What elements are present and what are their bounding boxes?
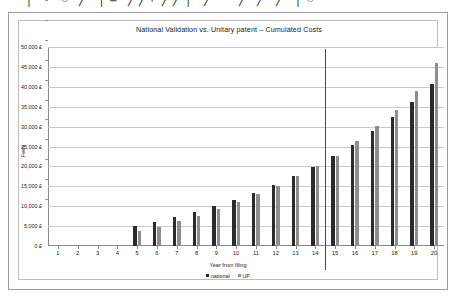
y-axis-label: 45,000 £ — [0, 64, 42, 70]
x-axis-tick — [236, 246, 237, 249]
y-axis-tick — [45, 40, 48, 41]
x-axis-title: Year from filing — [18, 262, 438, 268]
bar-national-year-11 — [252, 193, 255, 246]
bar-national-year-8 — [193, 212, 196, 246]
y-axis-label: 0 £ — [0, 243, 42, 249]
x-axis-label-5: 5 — [127, 250, 147, 256]
x-axis-tick — [315, 246, 316, 249]
x-axis-tick — [216, 246, 217, 249]
y-axis-label: 30,000 £ — [0, 124, 42, 130]
legend-label: UP — [242, 273, 250, 279]
bar-UP-year-7 — [177, 221, 180, 246]
bar-UP-year-19 — [415, 91, 418, 246]
bar-UP-year-5 — [138, 231, 141, 246]
legend-label: national — [211, 273, 230, 279]
x-axis-label-1: 1 — [48, 250, 68, 256]
x-axis-label-12: 12 — [266, 250, 286, 256]
x-axis-label-8: 8 — [187, 250, 207, 256]
y-axis-tick — [45, 179, 48, 180]
bar-UP-year-9 — [217, 209, 220, 246]
gridline — [48, 166, 444, 167]
bar-national-year-19 — [410, 102, 413, 246]
x-axis-label-18: 18 — [385, 250, 405, 256]
x-axis-label-6: 6 — [147, 250, 167, 256]
y-axis-label: 40,000 £ — [0, 84, 42, 90]
plot-area — [48, 47, 444, 246]
x-axis-label-3: 3 — [88, 250, 108, 256]
y-axis-label: 20,000 £ — [0, 163, 42, 169]
bar-national-year-12 — [272, 185, 275, 246]
x-axis-tick — [197, 246, 198, 249]
bar-UP-year-15 — [336, 156, 339, 246]
bar-UP-year-12 — [276, 186, 279, 246]
x-axis-label-4: 4 — [107, 250, 127, 256]
legend-item-UP[interactable]: UP — [238, 272, 250, 279]
y-axis-tick — [45, 0, 48, 1]
x-axis-tick — [355, 246, 356, 249]
annotation-divider-line — [325, 49, 326, 270]
gridline — [48, 67, 444, 68]
x-axis-label-14: 14 — [305, 250, 325, 256]
gridline — [48, 206, 444, 207]
y-axis-label: 5,000 £ — [0, 223, 42, 229]
bar-national-year-17 — [371, 131, 374, 246]
legend-item-national[interactable]: national — [206, 272, 230, 279]
x-axis-tick — [335, 246, 336, 249]
x-axis-tick — [78, 246, 79, 249]
x-axis-tick — [395, 246, 396, 249]
chart-legend: nationalUP — [18, 272, 438, 279]
bar-national-year-7 — [173, 217, 176, 246]
bar-national-year-9 — [212, 206, 215, 246]
x-axis-label-17: 17 — [365, 250, 385, 256]
cropped-glyph-text: — │— ○ ╱ │≡ ╱╱⌐╱╱│ ╱— ╱ ╱ ╱ │○ — [2, 0, 318, 6]
gridline — [48, 226, 444, 227]
gridline — [48, 107, 444, 108]
x-axis-label-9: 9 — [206, 250, 226, 256]
gridline — [48, 186, 444, 187]
y-axis-tick — [45, 199, 48, 200]
y-axis-tick — [45, 119, 48, 120]
gridline — [48, 87, 444, 88]
bar-national-year-16 — [351, 145, 354, 246]
y-axis-label: 50,000 £ — [0, 44, 42, 50]
x-axis-label-20: 20 — [424, 250, 444, 256]
bar-national-year-15 — [331, 156, 334, 246]
x-axis-tick — [58, 246, 59, 249]
y-axis-label: 15,000 £ — [0, 183, 42, 189]
bar-UP-year-17 — [375, 126, 378, 246]
gridline — [48, 127, 444, 128]
x-axis-tick — [177, 246, 178, 249]
x-axis-tick — [256, 246, 257, 249]
legend-swatch-icon — [206, 274, 209, 277]
bar-national-year-20 — [430, 84, 433, 246]
x-axis-tick — [414, 246, 415, 249]
y-axis-title: Fees — [20, 145, 26, 157]
gridline — [48, 47, 444, 48]
legend-swatch-icon — [238, 274, 241, 277]
cropped-glyph-strip: — │— ○ ╱ │≡ ╱╱⌐╱╱│ ╱— ╱ ╱ ╱ │○ — [0, 0, 456, 11]
bar-UP-year-16 — [355, 141, 358, 246]
bar-UP-year-14 — [316, 166, 319, 246]
x-axis-tick — [117, 246, 118, 249]
x-axis-tick — [157, 246, 158, 249]
y-axis-tick — [45, 159, 48, 160]
y-axis-label: 10,000 £ — [0, 203, 42, 209]
bar-UP-year-8 — [197, 216, 200, 246]
y-axis-tick — [45, 20, 48, 21]
x-axis-label-11: 11 — [246, 250, 266, 256]
x-axis-tick — [276, 246, 277, 249]
x-axis-tick — [98, 246, 99, 249]
x-axis-label-13: 13 — [286, 250, 306, 256]
x-axis-tick — [137, 246, 138, 249]
bar-national-year-18 — [391, 117, 394, 246]
bar-national-year-14 — [311, 167, 314, 246]
x-axis-label-19: 19 — [404, 250, 424, 256]
x-axis-tick — [434, 246, 435, 249]
x-axis-label-10: 10 — [226, 250, 246, 256]
y-axis-tick — [45, 80, 48, 81]
y-axis-tick — [45, 139, 48, 140]
gridline — [48, 147, 444, 148]
bar-UP-year-13 — [296, 176, 299, 246]
y-axis-tick — [45, 100, 48, 101]
chart-title: National Validation vs. Unitary patent –… — [19, 25, 439, 34]
